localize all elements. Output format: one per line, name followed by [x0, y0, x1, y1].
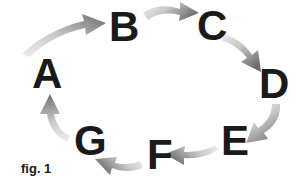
- arrow-g-to-a: [40, 94, 70, 142]
- node-label-d: D: [259, 63, 288, 105]
- arrow-b-to-c: [143, 2, 199, 21]
- arrow-e-to-f: [165, 145, 218, 165]
- figure-caption: fig. 1: [21, 161, 51, 176]
- node-label-a: A: [32, 53, 61, 95]
- arrow-c-to-d: [222, 34, 261, 72]
- node-label-b: B: [109, 6, 138, 48]
- figure-canvas: A B C D E F G fig. 1: [0, 0, 306, 190]
- arrow-d-to-e: [246, 104, 280, 143]
- node-label-g: G: [74, 120, 106, 162]
- node-label-c: C: [197, 5, 226, 47]
- node-label-f: F: [147, 134, 172, 176]
- node-label-e: E: [221, 120, 248, 162]
